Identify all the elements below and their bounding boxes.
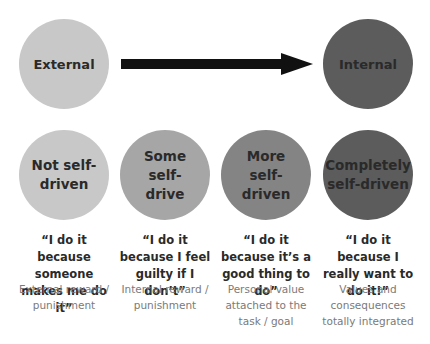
stage-circle-not-self-driven: Not self-driven — [19, 130, 109, 220]
stage-circle-completely-self-driven: Completely self-driven — [323, 130, 413, 220]
external-circle: External — [19, 19, 109, 109]
stage-circle-more-self-driven: More self-driven — [221, 130, 311, 220]
stage-description: Internal reward / punishment — [115, 281, 215, 313]
stage-label: Completely self-driven — [325, 156, 411, 194]
arrow-right-icon — [121, 52, 316, 78]
internal-label: Internal — [339, 57, 397, 72]
stage-description: Values and consequences totally integrat… — [318, 281, 418, 329]
external-label: External — [33, 57, 94, 72]
stage-label: Not self-driven — [31, 156, 97, 194]
stage-circle-some-self-drive: Some self-drive — [120, 130, 210, 220]
stage-label: Some self-drive — [130, 147, 200, 204]
stage-label: More self-driven — [231, 147, 301, 204]
internal-circle: Internal — [323, 19, 413, 109]
stage-description: External reward / punishment — [14, 281, 114, 313]
stage-description: Personal value attached to the task / go… — [216, 281, 316, 329]
